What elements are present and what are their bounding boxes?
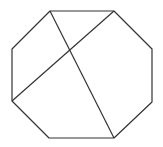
octagon-diagram	[0, 0, 163, 147]
diagonal-line-2	[12, 11, 114, 101]
diagonal-line-1	[50, 11, 114, 138]
